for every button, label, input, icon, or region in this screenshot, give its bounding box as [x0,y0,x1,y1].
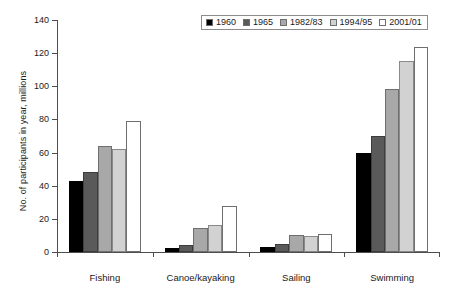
bar [222,206,236,252]
bar-group [69,20,141,252]
legend-label: 2001/01 [389,18,422,27]
bar-group [356,20,428,252]
x-tick-mark [249,252,250,257]
bar [371,136,385,252]
legend: 196019651982/831994/952001/01 [201,15,428,30]
bar [318,234,332,252]
legend-label: 1982/83 [290,18,323,27]
bar [112,149,126,252]
legend-label: 1960 [216,18,236,27]
y-tick-mark [52,153,57,154]
y-tick-label: 0 [44,247,49,257]
bar [260,247,274,252]
bar-group [165,20,237,252]
y-tick-mark [52,119,57,120]
bar [83,172,97,252]
y-tick-label: 140 [34,15,49,25]
x-tick-label: Fishing [90,272,121,283]
y-tick-label: 80 [39,114,49,124]
y-tick-mark [52,86,57,87]
y-tick-label: 20 [39,214,49,224]
y-axis-line [57,20,58,253]
bar-chart-figure: No. of participants in year, millions 02… [0,0,456,284]
y-tick-label: 40 [39,181,49,191]
plot-area: 020406080100120140 FishingCanoe/kayaking… [57,20,440,252]
y-axis-title: No. of participants in year, millions [18,26,28,256]
bar [399,61,413,252]
bar [208,225,222,252]
y-tick-mark [52,20,57,21]
bar [289,235,303,252]
x-tick-mark [57,252,58,257]
x-tick-mark [439,252,440,257]
y-tick-label: 120 [34,48,49,58]
bar [165,248,179,252]
legend-item[interactable]: 1994/95 [330,18,373,27]
bar [179,245,193,252]
legend-label: 1965 [253,18,273,27]
legend-item[interactable]: 2001/01 [379,18,422,27]
legend-label: 1994/95 [340,18,373,27]
y-tick-label: 100 [34,81,49,91]
x-tick-mark [344,252,345,257]
bar [356,153,370,252]
bar [304,236,318,252]
legend-swatch-icon [206,19,213,26]
y-tick-mark [52,53,57,54]
bar [414,47,428,252]
bar [193,228,207,252]
x-tick-label: Sailing [282,272,311,283]
bar [275,244,289,252]
legend-item[interactable]: 1960 [206,18,236,27]
bar [98,146,112,252]
legend-item[interactable]: 1965 [243,18,273,27]
x-tick-mark [153,252,154,257]
legend-swatch-icon [379,19,386,26]
y-tick-label: 60 [39,148,49,158]
bar [69,181,83,252]
legend-swatch-icon [280,19,287,26]
x-tick-label: Swimming [370,272,414,283]
legend-swatch-icon [243,19,250,26]
legend-item[interactable]: 1982/83 [280,18,323,27]
bar-group [260,20,332,252]
x-tick-label: Canoe/kayaking [167,272,235,283]
bar [126,121,140,252]
y-tick-mark [52,186,57,187]
y-tick-mark [52,219,57,220]
legend-swatch-icon [330,19,337,26]
bar [385,89,399,252]
